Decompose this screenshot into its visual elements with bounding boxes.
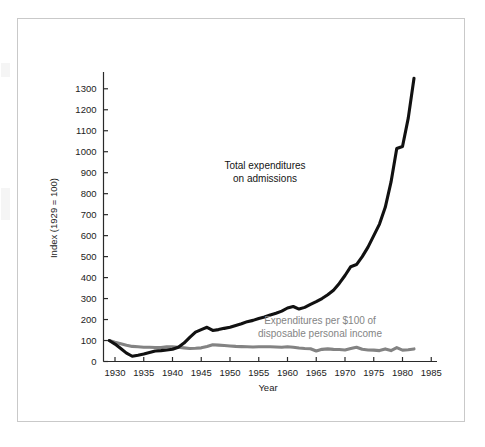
y-tick-label: 1200 [75, 104, 96, 115]
x-axis-title: Year [258, 382, 277, 393]
x-tick-label: 1980 [392, 367, 413, 378]
x-tick-label: 1935 [133, 367, 154, 378]
x-tick-label: 1955 [248, 367, 269, 378]
y-tick-label: 1000 [75, 146, 96, 157]
annotation-total-expenditures-line2: on admissions [233, 173, 297, 184]
y-tick-label: 300 [81, 293, 97, 304]
line-chart: 0100200300400500600700800900100011001200… [0, 0, 485, 447]
annotation-share-income-line1: Expenditures per $100 of [264, 315, 376, 326]
y-tick-label: 400 [81, 272, 97, 283]
x-tick-label: 1985 [421, 367, 442, 378]
y-tick-label: 1300 [75, 83, 96, 94]
annotation-share-income-line2: disposable personal income [258, 328, 382, 339]
x-tick-label: 1940 [162, 367, 183, 378]
x-tick-label: 1970 [334, 367, 355, 378]
y-tick-label: 700 [81, 209, 97, 220]
y-tick-label: 0 [91, 356, 96, 367]
series-line [109, 341, 414, 351]
x-tick-label: 1965 [306, 367, 327, 378]
x-tick-label: 1930 [104, 367, 125, 378]
y-tick-label: 1100 [76, 125, 96, 136]
x-tick-label: 1960 [277, 367, 298, 378]
y-tick-label: 500 [81, 251, 97, 262]
y-tick-label: 100 [81, 335, 97, 346]
x-tick-label: 1945 [191, 367, 212, 378]
y-tick-label: 600 [81, 230, 97, 241]
annotation-total-expenditures-line1: Total expenditures [224, 160, 305, 171]
x-tick-label: 1950 [219, 367, 240, 378]
y-tick-label: 800 [81, 188, 97, 199]
y-tick-label: 900 [81, 167, 97, 178]
y-tick-label: 200 [81, 314, 97, 325]
y-axis-title: Index (1929 = 100) [48, 178, 59, 258]
x-tick-label: 1975 [363, 367, 384, 378]
